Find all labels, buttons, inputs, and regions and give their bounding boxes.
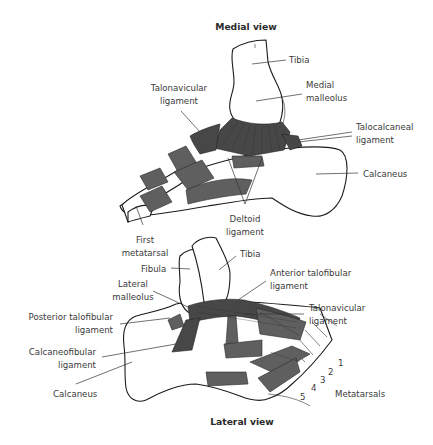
metatarsal-number-2: 2 [328,367,333,377]
label-lateral-tibia: Tibia [239,249,260,259]
label-lateral-talonavicular-2: ligament [309,316,348,326]
leader-medial-talonavicular [181,111,200,132]
medial-tibia-bone [230,40,283,129]
metatarsal-number-5: 5 [300,392,305,402]
label-calcaneofibular-2: ligament [58,360,97,370]
label-medial-calcaneus: Calcaneus [363,169,408,179]
label-anterior-talofibular-2: ligament [270,281,309,291]
lateral-midfoot-band-3 [206,372,248,386]
lateral-view: Fibula Tibia Lateral malleolus Anterior … [29,237,386,427]
label-medial-malleolus-1: Medial [306,80,334,90]
label-posterior-talofibular-2: ligament [75,325,114,335]
label-first-metatarsal-2: metatarsal [122,248,169,258]
medial-view: Medial view Tibia Medial [120,21,414,258]
label-lateral-malleolus-2: malleolus [112,292,154,302]
leader-anterior-talofibular [238,281,266,300]
lateral-ankle-band [226,316,238,344]
label-posterior-talofibular-1: Posterior talofibular [29,312,114,322]
deltoid-ligament-shape [214,118,290,156]
label-talocalcaneal-2: ligament [356,135,395,145]
label-fibula: Fibula [141,264,166,274]
metatarsal-number-4: 4 [311,383,316,393]
label-medial-talonavicular-2: ligament [160,96,199,106]
label-lateral-malleolus-1: Lateral [118,279,148,289]
medial-talonavicular-ligament-shape [190,124,220,154]
label-medial-malleolus-2: malleolus [306,93,348,103]
label-medial-talonavicular-1: Talonavicular [150,83,208,93]
medial-view-title: Medial view [215,21,277,32]
label-anterior-talofibular-1: Anterior talofibular [270,268,352,278]
metatarsal-number-1: 1 [338,358,343,368]
label-deltoid-2: ligament [226,227,265,237]
label-calcaneofibular-1: Calcaneofibular [29,347,97,357]
label-medial-tibia: Tibia [288,55,309,65]
label-lateral-calcaneus: Calcaneus [53,389,98,399]
label-metatarsals: Metatarsals [335,389,386,399]
label-deltoid-1: Deltoid [230,214,261,224]
leader-talocalcaneal [298,132,352,142]
metatarsal-number-3: 3 [320,375,325,385]
label-first-metatarsal-1: First [136,235,155,245]
label-lateral-talonavicular-1: Talonavicular [308,303,366,313]
label-talocalcaneal-1: Talocalcaneal [355,122,414,132]
lateral-view-title: Lateral view [210,416,274,427]
ankle-ligaments-diagram: Medial view Tibia Medial [0,0,433,445]
